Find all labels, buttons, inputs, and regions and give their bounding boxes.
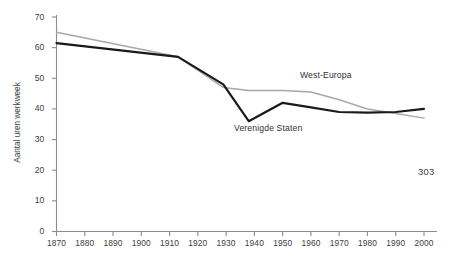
y-axis-tick-label: 20 — [19, 165, 45, 175]
y-axis-tick-label: 30 — [19, 134, 45, 144]
y-axis-tick-label: 10 — [19, 195, 45, 205]
page-number: 303 — [418, 166, 435, 177]
y-axis-tick-label: 50 — [19, 73, 45, 83]
series-lines — [57, 32, 425, 121]
x-axis-ticks — [57, 232, 425, 237]
series-label-west-europa: West-Europa — [300, 70, 352, 80]
y-axis-ticks — [52, 17, 57, 232]
series-label-verenigde-staten: Verenigde Staten — [234, 123, 302, 133]
series-line-west-europa — [57, 32, 425, 118]
chart-figure: Aantal uren werkweek 010203040506070 187… — [0, 0, 459, 266]
plot-area — [0, 0, 459, 266]
x-axis-tick-label: 2000 — [404, 238, 444, 248]
y-axis-tick-label: 70 — [19, 12, 45, 22]
y-axis-tick-label: 40 — [19, 103, 45, 113]
y-axis-tick-label: 0 — [19, 226, 45, 236]
y-axis-tick-label: 60 — [19, 42, 45, 52]
